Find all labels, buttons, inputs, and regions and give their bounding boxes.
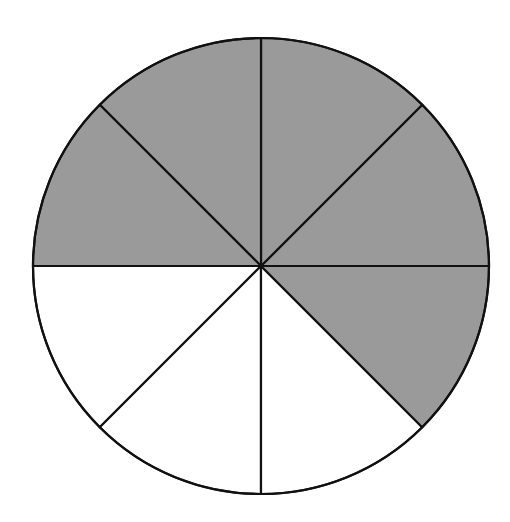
- pie-figure: [0, 0, 510, 522]
- pie-sectors: [33, 38, 489, 494]
